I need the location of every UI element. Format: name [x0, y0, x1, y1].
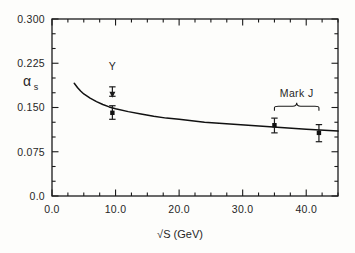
data-marker [272, 123, 276, 127]
y-tick-label: 0.300 [17, 13, 45, 25]
x-tick-label: 0.0 [44, 203, 60, 215]
x-axis-label: √S (GeV) [157, 228, 203, 240]
x-tick-label: 20.0 [168, 203, 190, 215]
data-marker [110, 111, 114, 115]
y-axis-label-subscript: s [34, 82, 39, 92]
y-tick-label: 0.0 [30, 190, 46, 202]
x-tick-label: 30.0 [232, 203, 254, 215]
y-tick-label: 0.075 [17, 146, 45, 158]
upsilon-label: Υ [109, 60, 116, 72]
x-tick-label: 10.0 [105, 203, 127, 215]
y-tick-label: 0.225 [17, 57, 45, 69]
y-tick-label: 0.150 [17, 101, 45, 113]
data-marker [317, 131, 321, 135]
alpha-s-vs-sqrt-s-chart: 0.010.020.030.040.00.00.0750.1500.2250.3… [0, 0, 355, 253]
y-axis-label-alpha: α [23, 73, 31, 89]
chart-canvas: 0.010.020.030.040.00.00.0750.1500.2250.3… [0, 0, 355, 253]
mark-j-label: Mark J [280, 87, 314, 99]
chart-background [0, 0, 355, 253]
x-tick-label: 40.0 [295, 203, 317, 215]
